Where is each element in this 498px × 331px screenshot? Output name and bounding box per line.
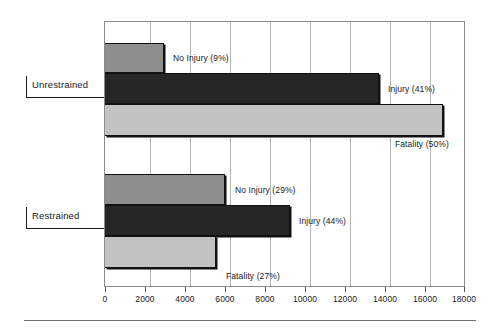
bar-restrained-no-injury[interactable]	[105, 174, 225, 205]
gridline-6000	[230, 22, 231, 286]
category-text-unrestrained: Unrestrained	[32, 79, 88, 91]
tick-mark-10000	[305, 287, 306, 292]
bar-value-label-unrestrained-injury: Injury (41%)	[388, 84, 435, 94]
x-tick-label-6000: 6000	[215, 294, 234, 304]
x-tick-label-8000: 8000	[255, 294, 274, 304]
gridline-16000	[430, 22, 431, 286]
x-tick-label-18000: 18000	[452, 294, 476, 304]
tick-mark-18000	[464, 287, 465, 292]
bracket-vertical-restrained	[26, 207, 27, 229]
gridline-10000	[310, 22, 311, 286]
tick-mark-0	[105, 287, 106, 292]
gridline-12000	[350, 22, 351, 286]
x-tick-label-2000: 2000	[135, 294, 154, 304]
tick-mark-14000	[385, 287, 386, 292]
tick-mark-8000	[265, 287, 266, 292]
x-tick-label-16000: 16000	[413, 294, 437, 304]
bar-value-label-unrestrained-fatality: Fatality (50%)	[395, 139, 449, 149]
bracket-horizontal-unrestrained	[26, 97, 104, 98]
category-text-restrained: Restrained	[32, 210, 79, 222]
tick-mark-16000	[425, 287, 426, 292]
x-tick-label-14000: 14000	[373, 294, 397, 304]
bracket-horizontal-restrained	[26, 228, 104, 229]
category-label-restrained: Restrained	[26, 207, 104, 229]
bar-value-label-restrained-fatality: Fatality (27%)	[226, 271, 280, 281]
bar-value-label-restrained-injury: Injury (44%)	[299, 216, 346, 226]
bar-unrestrained-no-injury[interactable]	[105, 43, 164, 73]
gridline-8000	[270, 22, 271, 286]
bar-unrestrained-injury[interactable]	[105, 73, 379, 104]
bar-unrestrained-fatality[interactable]	[105, 104, 443, 136]
bar-restrained-injury[interactable]	[105, 205, 290, 236]
tick-mark-4000	[185, 287, 186, 292]
bar-value-label-restrained-no-injury: No Injury (29%)	[235, 185, 296, 195]
category-label-unrestrained: Unrestrained	[26, 76, 104, 98]
bracket-vertical-unrestrained	[26, 76, 27, 98]
bottom-divider	[24, 320, 476, 321]
plot-area: No Injury (9%) Injury (41%) Fatality (50…	[104, 21, 465, 287]
x-tick-label-0: 0	[103, 294, 108, 304]
x-tick-label-10000: 10000	[293, 294, 317, 304]
x-tick-label-4000: 4000	[175, 294, 194, 304]
tick-mark-12000	[345, 287, 346, 292]
bar-restrained-fatality[interactable]	[105, 236, 216, 268]
gridline-14000	[390, 22, 391, 286]
x-tick-label-12000: 12000	[333, 294, 357, 304]
bar-chart-figure: No Injury (9%) Injury (41%) Fatality (50…	[0, 0, 498, 331]
tick-mark-6000	[225, 287, 226, 292]
tick-mark-2000	[145, 287, 146, 292]
bar-value-label-unrestrained-no-injury: No Injury (9%)	[173, 53, 229, 63]
